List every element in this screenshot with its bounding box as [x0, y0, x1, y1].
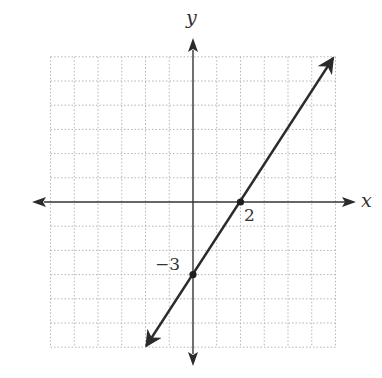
- x-axis-label: x: [361, 189, 372, 211]
- coordinate-graph: x y −3 2: [0, 0, 382, 378]
- y-axis-up-arrow-icon: [188, 38, 198, 52]
- y-axis-label: y: [185, 6, 197, 28]
- x-axis: [32, 197, 356, 207]
- x-axis-left-arrow-icon: [32, 197, 46, 207]
- x-intercept-label: 2: [244, 205, 255, 225]
- y-intercept-label: −3: [155, 254, 180, 274]
- data-point: [189, 271, 196, 278]
- y-axis-down-arrow-icon: [188, 352, 198, 366]
